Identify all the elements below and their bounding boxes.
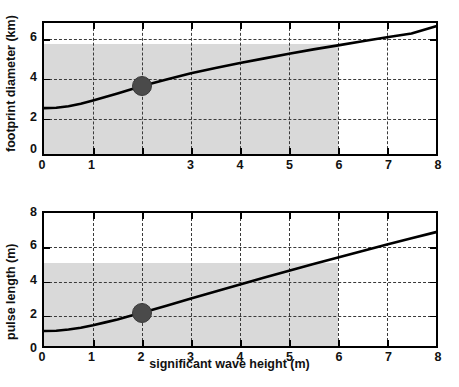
plot-area-top	[42, 21, 438, 156]
data-point-marker-bottom[interactable]	[132, 303, 152, 323]
panel-pulse-length: pulse length (m) 0 2 4 6 8	[0, 190, 459, 387]
y-tick-label: 6	[30, 30, 37, 44]
x-tick-label: 1	[88, 158, 95, 172]
y-tick-label: 6	[30, 238, 37, 252]
x-tick-label: 0	[39, 158, 46, 172]
y-tick-labels-top: 0 2 4 6	[21, 21, 37, 156]
y-axis-title-bottom: pulse length (m)	[4, 243, 18, 340]
x-tick-label: 3	[187, 158, 194, 172]
x-tick-label: 8	[435, 158, 442, 172]
y-tick-labels-bottom: 0 2 4 6 8	[21, 211, 37, 348]
x-axis-title-bottom: significant wave height (m)	[0, 357, 459, 371]
figure-container: footprint diameter (km) 0 2 4 6	[0, 0, 459, 387]
x-tick-label: 4	[237, 158, 244, 172]
y-tick-label: 0	[30, 341, 37, 355]
y-tick-label: 4	[30, 70, 37, 84]
panel-footprint-diameter: footprint diameter (km) 0 2 4 6	[0, 0, 459, 190]
y-axis-title-top: footprint diameter (km)	[4, 15, 18, 152]
x-tick-label: 5	[286, 158, 293, 172]
x-tick-label: 7	[385, 158, 392, 172]
y-tick-label: 4	[30, 273, 37, 287]
data-point-marker-top[interactable]	[132, 76, 152, 96]
y-tick-label: 8	[30, 205, 37, 219]
data-curve-bottom	[44, 213, 436, 346]
y-tick-label: 2	[30, 307, 37, 321]
y-tick-label: 0	[30, 142, 37, 156]
plot-area-bottom	[42, 211, 438, 348]
x-tick-label: 6	[336, 158, 343, 172]
y-tick-label: 2	[30, 110, 37, 124]
data-curve-top	[44, 23, 436, 154]
